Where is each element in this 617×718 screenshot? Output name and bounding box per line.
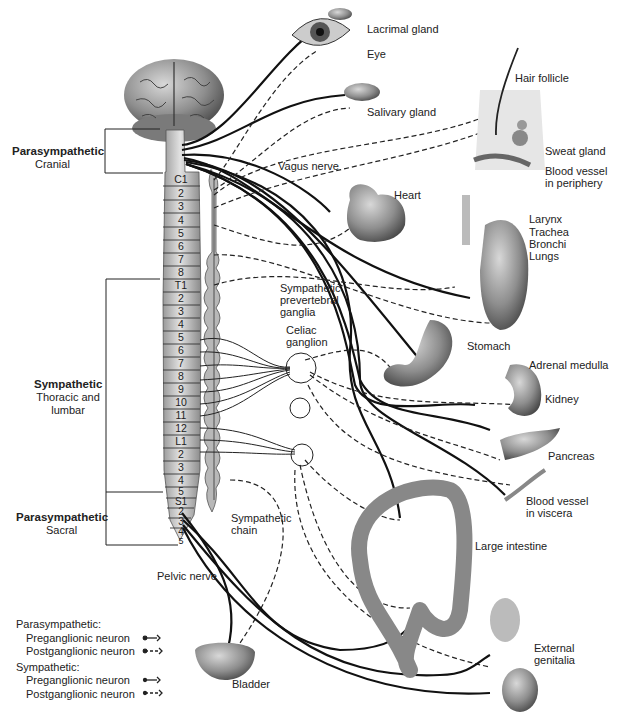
skin-hair-follicle-icon — [474, 48, 545, 170]
legend-symp-pre: Preganglionic neuron — [16, 674, 135, 688]
lacrimal-gland-label: Lacrimal gland — [367, 23, 439, 36]
bladder-label: Bladder — [232, 678, 270, 691]
eye-icon — [292, 8, 352, 45]
division-parasympathetic-cranial-title: Parasympathetic — [12, 145, 104, 158]
division-parasympathetic-sacral-subtitle: Sacral — [46, 524, 77, 537]
segment-label: 8 — [163, 370, 199, 382]
eye-label: Eye — [367, 48, 386, 61]
bladder-icon — [195, 643, 255, 680]
segment-label: 3 — [163, 200, 199, 212]
pelvic-nerve-label: Pelvic nerve — [157, 570, 217, 583]
prevertebral-ganglia-label-3: ganglia — [280, 306, 315, 319]
nerve-diagram-svg — [0, 0, 617, 718]
hair-follicle-label: Hair follicle — [515, 72, 569, 85]
segment-label: 5 — [163, 536, 199, 546]
segment-label: 10 — [163, 396, 199, 408]
segment-label: 7 — [163, 253, 199, 265]
heart-label: Heart — [394, 189, 421, 202]
segment-label: C1 — [163, 173, 199, 185]
division-parasympathetic-sacral-title: Parasympathetic — [16, 511, 108, 524]
segment-label: 2 — [163, 292, 199, 304]
division-sympathetic-subtitle-1: Thoracic and — [30, 391, 106, 404]
segment-label: 11 — [163, 409, 199, 421]
segment-label: 2 — [163, 448, 199, 460]
celiac-ganglion-label-2: ganglion — [286, 336, 328, 349]
segment-label: 5 — [163, 227, 199, 239]
segment-label: 8 — [163, 266, 199, 278]
legend: Parasympathetic: Preganglionic neuron Po… — [16, 618, 135, 701]
salivary-gland-label: Salivary gland — [367, 106, 436, 119]
kidney-icon — [505, 364, 541, 416]
adrenal-medulla-label: Adrenal medulla — [529, 359, 609, 372]
vagus-nerve-label: Vagus nerve — [278, 160, 339, 173]
stomach-label: Stomach — [467, 340, 510, 353]
sweat-gland-label: Sweat gland — [545, 145, 606, 158]
parasympathetic-cranial-nerves — [182, 28, 505, 518]
blood-vessel-viscera-label-2: in viscera — [526, 507, 572, 520]
sympathetic-chain — [204, 170, 220, 512]
segment-label: 7 — [163, 357, 199, 369]
external-genitalia-label-2: genitalia — [534, 654, 575, 667]
legend-para-pre: Preganglionic neuron — [16, 632, 135, 646]
segment-label: 6 — [163, 240, 199, 252]
larynx-label: Larynx — [529, 213, 562, 226]
segment-label: 5 — [163, 331, 199, 343]
segment-label: 4 — [163, 318, 199, 330]
lungs-label: Lungs — [529, 250, 559, 263]
segment-label: 4 — [163, 214, 199, 226]
blood-vessel-periphery-label-2: in periphery — [545, 177, 602, 190]
salivary-gland-icon — [344, 83, 380, 101]
segment-label: 3 — [163, 461, 199, 473]
segment-label: 6 — [163, 344, 199, 356]
genitalia-icon — [490, 598, 538, 712]
segment-label: 9 — [163, 383, 199, 395]
brain-icon — [124, 59, 224, 142]
segment-label: L1 — [163, 435, 199, 447]
segment-label: 3 — [163, 305, 199, 317]
legend-para-title: Parasympathetic: — [16, 618, 135, 632]
large-intestine-label: Large intestine — [475, 540, 547, 553]
segment-label: T1 — [163, 279, 199, 291]
division-sympathetic-title: Sympathetic — [34, 378, 102, 391]
large-intestine-icon — [359, 488, 464, 670]
segment-label: 2 — [163, 187, 199, 199]
segment-label: 12 — [163, 422, 199, 434]
legend-symp-title: Sympathetic: — [16, 661, 135, 675]
segment-label: 4 — [163, 474, 199, 486]
lungs-icon — [462, 195, 528, 330]
pancreas-label: Pancreas — [548, 450, 594, 463]
legend-symp-post: Postganglionic neuron — [16, 688, 135, 702]
division-parasympathetic-cranial-subtitle: Cranial — [35, 158, 70, 171]
division-sympathetic-subtitle-2: lumbar — [30, 404, 106, 417]
legend-symbols — [143, 635, 162, 696]
sympathetic-chain-label-2: chain — [231, 524, 257, 537]
legend-para-post: Postganglionic neuron — [16, 645, 135, 659]
kidney-label: Kidney — [545, 393, 579, 406]
